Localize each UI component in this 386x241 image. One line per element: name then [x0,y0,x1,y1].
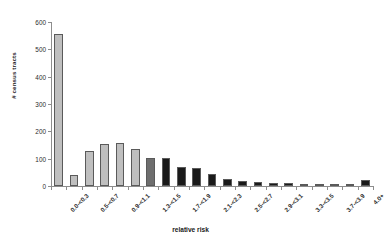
x-axis-tick-label: 1.7-<1.9 [191,192,212,213]
bar [361,180,370,186]
x-axis-tick-label: 3.3-<3.5 [314,192,335,213]
x-axis-tick [189,186,190,190]
x-axis-title: relative risk [0,226,381,233]
x-axis-tick [112,186,113,190]
bar [162,158,171,186]
x-axis-tick [312,186,313,190]
x-axis-tick-label-wrap: 0.5-<0.7 [99,192,120,213]
x-axis-tick [235,186,236,190]
x-axis-tick [296,186,297,190]
x-axis-tick-label-wrap: 0.0-<0.3 [68,192,89,213]
x-axis-tick [204,186,205,190]
x-axis-tick-label: 3.7-<3.9 [344,192,365,213]
x-axis-tick-label-wrap: 2.9-<3.1 [283,192,304,213]
bar [192,168,201,186]
bar [54,34,63,186]
x-axis-tick [51,186,52,190]
bar [70,175,79,186]
bar [346,184,355,186]
x-axis-tick [128,186,129,190]
y-axis-tick-label: 600 [35,19,46,26]
bar [300,184,309,186]
x-axis-tick-label-wrap: 4.0+ [372,192,386,206]
x-axis-tick-label-wrap: 0.9-<1.1 [130,192,151,213]
x-axis-tick-label: 2.1-<2.3 [222,192,243,213]
y-axis-title: # census tracts [10,26,17,126]
y-axis-tick-label: 400 [35,73,46,80]
bar [330,184,339,186]
x-axis-tick [66,186,67,190]
y-axis-tick-label: 500 [35,46,46,53]
x-axis-tick [327,186,328,190]
bar [116,143,125,186]
bar [177,167,186,186]
y-axis-tick-label: 300 [35,101,46,108]
x-axis-tick [158,186,159,190]
x-axis-tick [373,186,374,190]
x-axis-tick [342,186,343,190]
bar [315,184,324,186]
x-axis-line [51,186,373,187]
x-axis-tick-label: 2.9-<3.1 [283,192,304,213]
bar [146,158,155,186]
x-axis-tick-label: 2.5-<2.7 [252,192,273,213]
bar [254,182,263,186]
x-axis-tick [281,186,282,190]
bar [208,174,217,186]
x-axis-tick-label-wrap: 3.3-<3.5 [314,192,335,213]
x-axis-tick [174,186,175,190]
y-axis-tick-label: 100 [35,155,46,162]
bar [131,149,140,186]
x-axis-tick-label-wrap: 3.7-<3.9 [344,192,365,213]
x-axis-tick [358,186,359,190]
x-axis-tick-label-wrap: 2.1-<2.3 [222,192,243,213]
x-axis-tick [97,186,98,190]
x-axis-tick [266,186,267,190]
bars-group [51,22,373,186]
x-axis-tick-label: 4.0+ [372,192,386,206]
x-axis-tick [82,186,83,190]
x-axis-tick-label: 1.3-<1.5 [160,192,181,213]
bar [238,181,247,186]
bar [284,183,293,186]
bar [223,179,232,186]
x-axis-tick [220,186,221,190]
bar [269,183,278,186]
x-axis-tick [250,186,251,190]
x-axis-tick-label: 0.9-<1.1 [130,192,151,213]
bar [100,144,109,186]
x-axis-tick-label: 0.0-<0.3 [68,192,89,213]
x-axis-tick-label-wrap: 2.5-<2.7 [252,192,273,213]
bar [85,151,94,186]
y-axis-tick-label: 0 [42,183,46,190]
x-axis-tick [143,186,144,190]
plot-area: 0100200300400500600 0.0-<0.30.5-<0.70.9-… [51,22,373,186]
x-axis-tick-label-wrap: 1.7-<1.9 [191,192,212,213]
x-axis-tick-label: 0.5-<0.7 [99,192,120,213]
y-axis-tick-label: 200 [35,128,46,135]
x-axis-tick-label-wrap: 1.3-<1.5 [160,192,181,213]
